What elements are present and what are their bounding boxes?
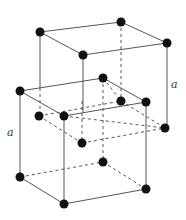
atom [79,51,88,60]
atom [99,74,108,83]
atom [16,173,25,182]
atom [142,185,151,194]
atom [78,139,87,148]
atom [163,39,172,48]
lattice-svg [0,0,186,220]
atom [60,112,69,121]
edge-length-label-left: a [7,126,14,139]
atom [161,124,170,133]
atom [117,97,126,106]
atom [16,87,25,96]
atom [60,200,69,209]
edge-length-label-right: a [171,78,178,91]
crystal-lattice-diagram: a a [0,0,186,220]
atom [36,28,45,37]
atom [117,18,126,27]
lower-cube-hidden-edges [20,78,165,189]
atom [99,158,108,167]
atom [35,112,44,121]
atom [142,98,151,107]
